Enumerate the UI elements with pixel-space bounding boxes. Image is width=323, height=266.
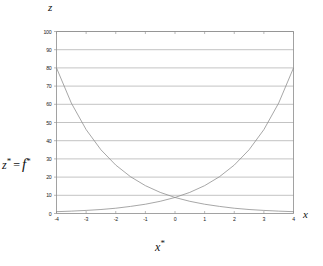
y-axis-title: z*=f* xyxy=(2,156,31,173)
x-tick-label: 0 xyxy=(168,216,182,222)
x-tick-label: 2 xyxy=(227,216,241,222)
y-axis-title-equals: = xyxy=(11,158,22,172)
x-axis-title: x* xyxy=(155,238,165,255)
x-tick-label: -4 xyxy=(50,216,64,222)
chart-figure: z x z*=f* x* 0102030405060708090100-4-3-… xyxy=(0,0,323,266)
x-tick-label: 1 xyxy=(198,216,212,222)
x-tick-label: 3 xyxy=(257,216,271,222)
curve-decreasing-exponential xyxy=(57,68,294,212)
y-tick-label: 30 xyxy=(36,156,52,162)
top-axis-label: z xyxy=(48,1,52,13)
x-axis-title-star: * xyxy=(160,238,165,248)
y-tick-label: 100 xyxy=(36,29,52,35)
plot-canvas xyxy=(0,0,323,266)
y-tick-label: 80 xyxy=(36,65,52,71)
y-tick-label: 40 xyxy=(36,138,52,144)
x-tick-label: -2 xyxy=(109,216,123,222)
y-tick-label: 70 xyxy=(36,83,52,89)
y-tick-label: 50 xyxy=(36,120,52,126)
y-tick-label: 90 xyxy=(36,47,52,53)
y-tick-label: 10 xyxy=(36,192,52,198)
x-tick-label: -3 xyxy=(79,216,93,222)
x-tick-label: -1 xyxy=(138,216,152,222)
y-tick-label: 20 xyxy=(36,174,52,180)
x-tick-label: 4 xyxy=(287,216,301,222)
y-axis-title-star-2: * xyxy=(26,156,31,166)
right-axis-label: x xyxy=(303,208,308,220)
y-tick-label: 60 xyxy=(36,101,52,107)
curve-increasing-exponential xyxy=(57,68,294,212)
